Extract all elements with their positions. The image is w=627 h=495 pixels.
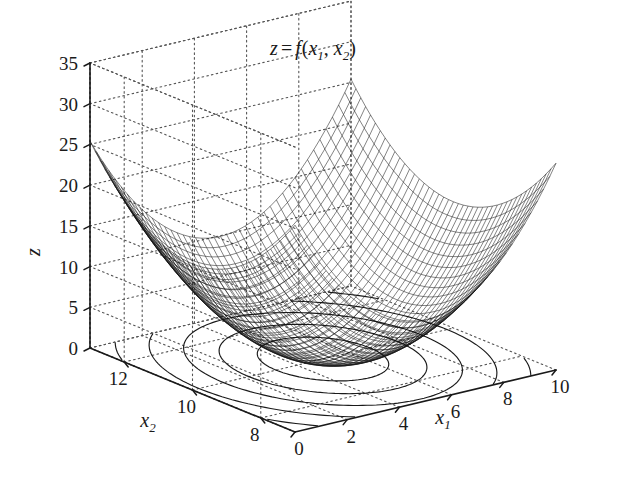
z-axis-tick-labels: 05101520253035 [59,53,78,359]
x1-axis-title-text: x1 [434,406,450,432]
x2-axis-title: x2 [139,409,156,435]
z-tick-label: 25 [59,134,78,155]
x2-axis-title-text: x2 [139,409,156,435]
plot-canvas: 05101520253035 0246810 12108 z x1 x2 z=f… [0,0,627,495]
x2-title-base: x [139,409,149,431]
x1-axis-tick-labels: 0246810 [294,376,569,459]
x1-tick-label: 10 [551,376,570,397]
z-tick-label: 20 [59,175,78,196]
x1-title-sub: 1 [444,417,451,432]
title-x-a: x [307,37,317,59]
x1-tick-label: 0 [294,438,304,459]
x1-tick-label: 4 [399,413,409,434]
x2-tick-label: 10 [177,396,196,417]
x1-tick-label: 2 [346,426,356,447]
figure-3d-surface-plot: 05101520253035 0246810 12108 z x1 x2 z=f… [0,0,627,495]
z-tick-label: 15 [59,216,78,237]
z-axis-title: z [22,248,44,257]
z-tick-label: 30 [59,94,78,115]
title-z: z [269,37,278,59]
x2-axis-tick-labels: 12108 [109,368,260,445]
x1-tick-label: 8 [503,388,513,409]
z-tick-label: 10 [59,257,78,278]
x2-tick-label: 12 [109,368,128,389]
title-x-b: x [333,37,343,59]
title-equals: = [281,37,292,59]
x1-tick-label: 6 [451,401,461,422]
x1-title-base: x [434,406,444,428]
plot-title-text: z=f(x1, x2) [269,37,356,63]
title-paren-close: ) [349,37,356,60]
z-axis-title-text: z [22,248,44,257]
x1-axis-title: x1 [434,406,450,432]
z-tick-label: 5 [69,297,79,318]
z-tick-label: 35 [59,53,78,74]
surface-mesh [90,79,556,366]
x2-tick-label: 8 [250,424,260,445]
title-comma: , [324,37,334,59]
z-tick-label: 0 [69,338,79,359]
plot-title: z=f(x1, x2) [269,37,356,63]
x2-title-sub: 2 [149,420,156,435]
